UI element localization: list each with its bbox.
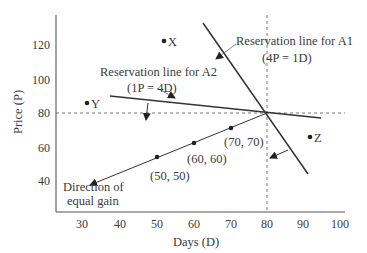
- gain-point-60: [192, 141, 197, 146]
- a2-acceptable-direction-arrow: [146, 103, 148, 120]
- a2-label-line2: (1P = 4D): [127, 81, 177, 95]
- x-axis-title: Days (D): [173, 235, 219, 249]
- point-x-label: X: [168, 35, 177, 49]
- gain-point-50: [155, 155, 160, 160]
- y-tick: 80: [38, 106, 50, 120]
- point-z-dot: [308, 135, 313, 140]
- x-tick: 100: [331, 217, 349, 231]
- x-tick: 40: [114, 217, 126, 231]
- x-tick: 50: [151, 217, 163, 231]
- a2-label-line1: Reservation line for A2: [100, 65, 217, 79]
- direction-label-line1: Direction of: [63, 180, 125, 194]
- a1-acceptable-direction-arrow: [270, 150, 288, 158]
- x-tick: 60: [188, 217, 200, 231]
- reservation-line-a2: [110, 96, 321, 118]
- point-y-label: Y: [91, 97, 100, 111]
- negotiation-diagram: X Y Z Reservation line for A1 (4P = 1D) …: [0, 0, 367, 253]
- x-tick: 70: [225, 217, 237, 231]
- a1-label-line1: Reservation line for A1: [236, 34, 353, 48]
- y-tick: 60: [38, 141, 50, 155]
- y-tick: 120: [32, 38, 50, 52]
- y-tick: 100: [32, 73, 50, 87]
- x-tick: 80: [261, 217, 273, 231]
- gain-point-70-label: (70, 70): [224, 135, 264, 149]
- point-y-dot: [85, 101, 90, 106]
- a1-label-line2: (4P = 1D): [262, 51, 312, 65]
- y-axis-title: Price (P): [11, 90, 25, 134]
- direction-label-line2: equal gain: [67, 194, 119, 208]
- point-z-label: Z: [314, 131, 322, 145]
- x-tick-labels: 30 40 50 60 70 80 90 100: [76, 217, 349, 231]
- gain-point-50-label: (50, 50): [150, 169, 190, 183]
- y-tick-labels: 120 100 80 60 40: [32, 38, 50, 188]
- y-tick: 40: [38, 174, 50, 188]
- x-tick: 90: [297, 217, 309, 231]
- x-tick: 30: [76, 217, 88, 231]
- point-x-dot: [162, 39, 167, 44]
- gain-point-70: [229, 126, 234, 131]
- gain-point-60-label: (60, 60): [187, 152, 227, 166]
